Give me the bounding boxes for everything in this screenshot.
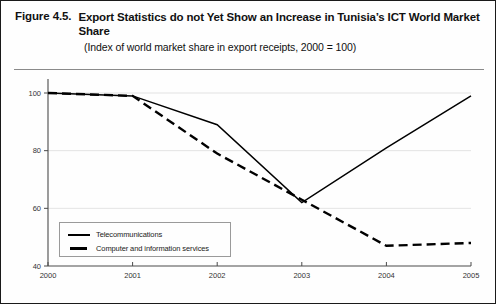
gridlines-group bbox=[48, 93, 471, 208]
x-tick-label: 2002 bbox=[209, 271, 226, 280]
x-tick-label: 2003 bbox=[293, 271, 310, 280]
legend-label-telecommunications: Telecommunications bbox=[96, 230, 162, 239]
title-row: Figure 4.5. Export Statistics do not Yet… bbox=[15, 10, 483, 38]
legend-line-dashed-icon bbox=[67, 243, 91, 253]
figure-container: Figure 4.5. Export Statistics do not Yet… bbox=[0, 0, 496, 304]
x-tick-label: 2001 bbox=[124, 271, 141, 280]
y-tick-label: 80 bbox=[33, 146, 41, 155]
legend-line-solid-icon bbox=[67, 229, 91, 239]
series-line-telecommunications bbox=[48, 93, 471, 203]
chart-plot-area: 406080100200020012002200320042005 bbox=[1, 71, 496, 304]
legend-item-computer-information-services: Computer and information services bbox=[67, 241, 223, 255]
y-tick-label: 40 bbox=[33, 262, 41, 271]
legend-label-computer-information-services: Computer and information services bbox=[96, 244, 209, 253]
x-tick-label: 2005 bbox=[463, 271, 480, 280]
legend-item-telecommunications: Telecommunications bbox=[67, 227, 223, 241]
y-tick-label: 60 bbox=[33, 204, 41, 213]
title-divider bbox=[14, 69, 484, 70]
y-tick-label: 100 bbox=[28, 89, 41, 98]
chart-legend: Telecommunications Computer and informat… bbox=[59, 222, 231, 257]
figure-title: Export Statistics do not Yet Show an Inc… bbox=[78, 10, 483, 38]
figure-number-label: Figure 4.5. bbox=[15, 10, 71, 22]
chart-svg: 406080100200020012002200320042005 bbox=[1, 71, 496, 304]
figure-title-block: Figure 4.5. Export Statistics do not Yet… bbox=[15, 10, 483, 54]
figure-subtitle: (Index of world market share in export r… bbox=[84, 41, 483, 54]
x-tick-label: 2000 bbox=[40, 271, 57, 280]
x-tick-label: 2004 bbox=[378, 271, 395, 280]
